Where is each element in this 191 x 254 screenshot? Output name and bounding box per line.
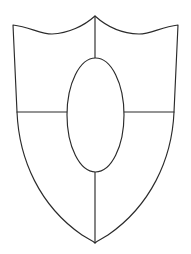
shield-drawing — [0, 0, 191, 254]
center-oval-shape — [67, 58, 124, 172]
image-canvas — [0, 0, 191, 254]
